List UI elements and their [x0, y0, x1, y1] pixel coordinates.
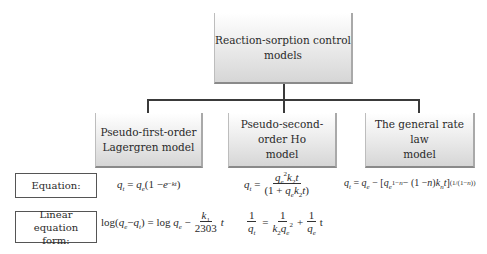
connector-right-drop [418, 99, 420, 113]
connector-left-drop [147, 99, 149, 113]
root-node-label: Reaction-sorption control models [215, 33, 351, 63]
pfo-linear-fraction: k1 2303 [193, 209, 219, 234]
linear-form-pseudo-second-order: 1qt = 1k2qe2 + 1qe t [244, 209, 323, 234]
child-node-pseudo-first-order: Pseudo-first-order Lagergren model [95, 113, 203, 168]
child-label-line2: model [366, 147, 473, 162]
root-label-line1: Reaction-sorption control [215, 33, 351, 48]
child-node-pseudo-second-order: Pseudo-second-order Ho model [228, 113, 337, 168]
root-node-box: Reaction-sorption control models [214, 13, 353, 84]
connector-root-stem [283, 84, 285, 100]
root-label-line2: models [215, 48, 351, 63]
equation-pseudo-first-order: qt = qe(1 − e−kt) [117, 178, 180, 190]
connector-middle-drop [283, 99, 285, 113]
linear-label-line1: Linear equation [16, 208, 96, 234]
equation-general-rate-law: qt = qe − [qe1−n − (1 − n)knt](1/(1−n)) [344, 177, 476, 188]
linear-label-line2: form: [16, 234, 96, 247]
child-label-line1: Pseudo-second-order Ho [229, 117, 335, 147]
child-label-line1: The general rate law [366, 117, 473, 147]
linear-form-pseudo-first-order: log(qe − qt) = log qe − k1 2303 t [101, 209, 224, 234]
equation-label-text: Equation: [31, 179, 80, 192]
child-label-line2: Lagergren model [100, 140, 196, 155]
pso-fraction: qe2k2t (1 + qek2t) [262, 171, 311, 196]
linear-form-row-label: Linear equation form: [15, 211, 97, 243]
equation-row-label: Equation: [15, 173, 97, 198]
child-label-line1: Pseudo-first-order [100, 125, 196, 140]
child-label-line2: model [229, 147, 335, 162]
child-node-general-rate-law: The general rate law model [365, 113, 475, 168]
equation-pseudo-second-order: qt = qe2k2t (1 + qek2t) [244, 171, 313, 196]
